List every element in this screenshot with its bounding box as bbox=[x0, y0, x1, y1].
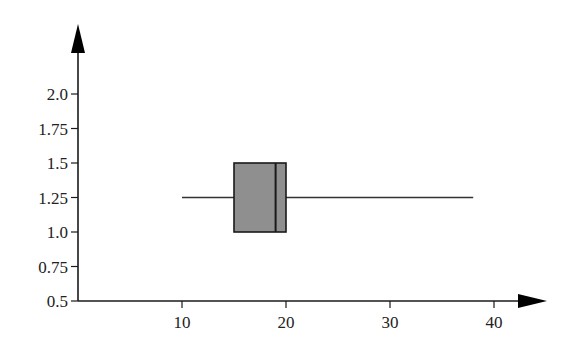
y-tick-label: 1.0 bbox=[47, 223, 68, 242]
x-tick-label: 40 bbox=[486, 313, 503, 332]
interquartile-box bbox=[234, 163, 286, 232]
y-tick-label: 1.75 bbox=[38, 120, 68, 139]
box-plot bbox=[182, 163, 473, 232]
y-tick-label: 2.0 bbox=[47, 85, 68, 104]
y-tick-label: 1.25 bbox=[38, 189, 68, 208]
x-tick-label: 30 bbox=[382, 313, 399, 332]
axes bbox=[71, 24, 547, 308]
y-tick-label: 0.75 bbox=[38, 258, 68, 277]
x-tick-label: 10 bbox=[174, 313, 191, 332]
y-axis-arrow-icon bbox=[71, 24, 85, 53]
x-axis-arrow-icon bbox=[518, 294, 547, 308]
y-tick-label: 1.5 bbox=[47, 154, 68, 173]
x-tick-label: 20 bbox=[278, 313, 295, 332]
box-plot-chart: 102030400.50.751.01.251.51.752.0 bbox=[0, 0, 571, 353]
y-tick-label: 0.5 bbox=[47, 292, 68, 311]
